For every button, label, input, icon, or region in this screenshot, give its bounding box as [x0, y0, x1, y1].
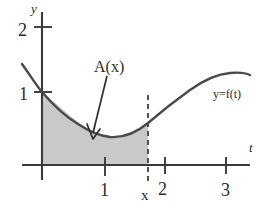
figure-canvas: y t 2 1 1 2 3 A(x) y=f(t) x [0, 0, 268, 213]
y-tick-label-2: 2 [18, 20, 27, 40]
x-tick-label-3: 3 [221, 180, 230, 200]
y-tick-label-1: 1 [19, 84, 28, 104]
y-axis-label: y [29, 1, 37, 16]
x-tick-label-2: 2 [158, 179, 167, 199]
area-label: A(x) [94, 58, 124, 76]
area-label-arrow-line [93, 76, 107, 133]
x-axis-label: t [249, 140, 253, 155]
x-marker-label: x [141, 187, 149, 203]
x-tick-label-1: 1 [100, 180, 109, 200]
curve-label: y=f(t) [213, 87, 241, 101]
